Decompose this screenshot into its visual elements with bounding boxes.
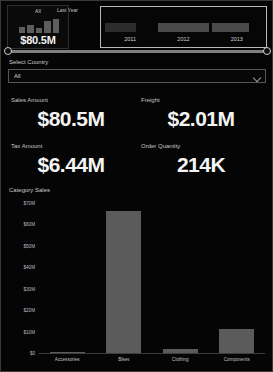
y-axis-tick-label: $20M — [7, 308, 35, 313]
kpi-value: $2.01M — [138, 107, 264, 131]
chart-bar[interactable] — [163, 349, 198, 354]
chart-bar[interactable] — [106, 211, 141, 353]
summary-kpi-card-value: $80.5M — [8, 34, 68, 46]
kpi-sales-amount: Sales Amount $80.5M — [8, 97, 138, 141]
x-axis-baseline — [39, 353, 265, 354]
last-year-label: Last Year — [57, 7, 78, 13]
sparkline-bar — [44, 21, 50, 33]
top-filter-strip: All $80.5M Last Year 201120122013 — [1, 1, 273, 57]
chevron-down-icon — [253, 74, 261, 82]
x-axis-tick-label: Clothing — [172, 357, 189, 362]
timeline-segment[interactable] — [158, 23, 208, 34]
kpi-value: 214K — [138, 153, 264, 177]
timeline-year-label[interactable]: 2012 — [158, 36, 208, 45]
chart-bar[interactable] — [219, 329, 254, 353]
range-handle-right[interactable] — [263, 47, 271, 55]
timeline-slicer[interactable]: 201120122013 — [100, 6, 267, 48]
select-country-label: Select Country — [9, 59, 48, 65]
category-sales-chart: $0$10M$20M$30M$40M$50M$60M$70M Accessori… — [7, 197, 269, 369]
kpi-label: Sales Amount — [11, 97, 48, 103]
timeline-range-track[interactable] — [8, 50, 265, 53]
sparkline-bar — [27, 25, 33, 33]
chart-plot-area — [39, 203, 265, 353]
sparkline-bar — [53, 19, 59, 33]
country-dropdown-value: All — [14, 73, 21, 79]
kpi-order-quantity: Order Quantity 214K — [138, 143, 268, 187]
y-axis-tick-label: $50M — [7, 243, 35, 248]
x-axis-tick-label: Components — [224, 357, 250, 362]
y-axis-tick-label: $70M — [7, 201, 35, 206]
timeline-year-label[interactable]: 2011 — [105, 36, 155, 45]
x-axis-tick-label: Bikes — [118, 357, 129, 362]
dashboard-root: All $80.5M Last Year 201120122013 Select… — [0, 0, 273, 372]
kpi-label: Freight — [141, 97, 160, 103]
timeline-segment[interactable] — [105, 23, 155, 34]
y-axis-tick-label: $0 — [7, 351, 35, 356]
y-axis-tick-label: $60M — [7, 222, 35, 227]
kpi-value: $80.5M — [8, 107, 134, 131]
timeline-bars — [105, 23, 262, 34]
kpi-value: $6.44M — [8, 153, 134, 177]
timeline-year-labels: 201120122013 — [105, 36, 262, 45]
y-axis-tick-label: $40M — [7, 265, 35, 270]
timeline-bar — [105, 23, 136, 32]
timeline-bar — [212, 23, 249, 32]
y-axis-tick-label: $10M — [7, 329, 35, 334]
timeline-segment[interactable] — [212, 23, 262, 34]
kpi-freight: Freight $2.01M — [138, 97, 268, 141]
kpi-label: Order Quantity — [141, 143, 180, 149]
chart-title: Category Sales — [9, 187, 50, 193]
kpi-tax-amount: Tax Amount $6.44M — [8, 143, 138, 187]
timeline-bar — [158, 23, 208, 32]
sparkline-bar-chart — [19, 17, 59, 33]
sparkline-bar — [19, 27, 25, 33]
country-dropdown[interactable]: All — [8, 69, 266, 83]
range-handle-left[interactable] — [4, 47, 12, 55]
chart-bar[interactable] — [50, 352, 85, 354]
kpi-label: Tax Amount — [11, 143, 42, 149]
x-axis-tick-label: Accessories — [55, 357, 80, 362]
sparkline-bar — [36, 28, 42, 33]
y-axis-tick-label: $30M — [7, 286, 35, 291]
timeline-year-label[interactable]: 2013 — [212, 36, 262, 45]
